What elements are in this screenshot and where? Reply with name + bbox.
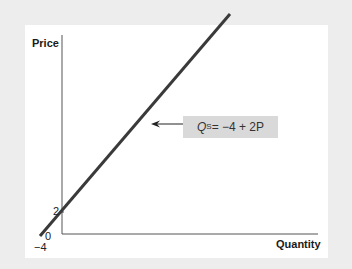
- equation-rest: = −4 + 2P: [212, 120, 264, 134]
- supply-equation-label: QS = −4 + 2P: [183, 116, 278, 138]
- x-tick-label-neg4: −4: [34, 242, 47, 253]
- y-tick-label-2: 2: [53, 206, 59, 217]
- x-axis-title: Quantity: [276, 239, 321, 250]
- y-axis-title: Price: [32, 38, 59, 49]
- equation-superscript: S: [206, 122, 211, 131]
- equation-q: Q: [197, 120, 206, 134]
